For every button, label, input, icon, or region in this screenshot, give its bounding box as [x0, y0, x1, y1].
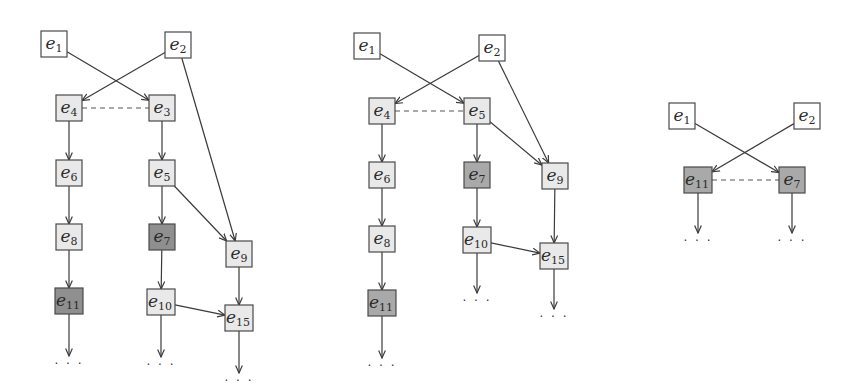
event-node-e11: e11: [368, 290, 396, 316]
event-node-e2: e2: [794, 103, 820, 129]
edge-e2-to-e9: [182, 58, 235, 241]
event-node-e4: e4: [56, 95, 82, 121]
event-node-e7: e7: [464, 162, 490, 188]
ellipsis-e11: · · ·: [683, 234, 712, 248]
event-node-e3: e3: [149, 95, 175, 121]
event-node-e2: e2: [479, 35, 505, 61]
event-graph-diagram-1: · · ·· · ·· · ·e1e2e4e3e6e5e8e7e9e11e10e…: [41, 31, 254, 388]
event-node-e4: e4: [369, 98, 395, 124]
event-node-e11: e11: [684, 167, 712, 193]
event-node-e10: e10: [147, 289, 175, 315]
nodes: e1e2e11e7: [669, 103, 820, 193]
event-node-e9: e9: [226, 241, 252, 267]
event-graph-diagram-2: · · ·· · ·· · ·e1e2e4e5e6e7e9e8e10e15e11: [354, 33, 569, 373]
edge-e1-to-e5: [380, 54, 464, 104]
ellipsis-e15: · · ·: [539, 310, 568, 324]
event-node-e11: e11: [55, 288, 83, 314]
event-graph-diagram-3: · · ·· · ·e1e2e11e7: [669, 103, 820, 248]
edge-e9-to-e15: [554, 189, 555, 243]
event-node-e15: e15: [225, 305, 253, 331]
edge-e2-to-e11: [712, 124, 794, 172]
event-node-e1: e1: [354, 33, 380, 59]
edge-e2-to-e9: [498, 61, 548, 163]
ellipsis-e11: · · ·: [54, 357, 83, 371]
ellipsis-e7: · · ·: [777, 234, 806, 248]
event-node-e9: e9: [542, 163, 568, 189]
nodes: e1e2e4e5e6e7e9e8e10e15e11: [354, 33, 568, 316]
event-node-e7: e7: [149, 224, 175, 250]
ellipsis-e10: · · ·: [146, 358, 175, 372]
edge-e10-to-e15: [491, 243, 540, 253]
event-node-e5: e5: [149, 160, 175, 186]
edge-e1-to-e3: [67, 52, 149, 101]
edge-e1-to-e7: [695, 124, 779, 173]
event-node-e8: e8: [369, 226, 395, 252]
edge-e5-to-e9: [174, 186, 226, 241]
ellipsis-e15: · · ·: [224, 374, 253, 388]
event-graph-canvas: · · ·· · ·· · ·e1e2e4e3e6e5e8e7e9e11e10e…: [0, 0, 856, 392]
event-node-e1: e1: [41, 31, 67, 57]
ellipsis-e10: · · ·: [462, 294, 491, 308]
event-node-e15: e15: [540, 243, 568, 269]
ellipsis-e11: · · ·: [367, 359, 396, 373]
event-node-e1: e1: [669, 103, 695, 129]
edge-e7-to-e10: [161, 250, 162, 289]
nodes: e1e2e4e3e6e5e8e7e9e11e10e15: [41, 31, 253, 331]
event-node-e5: e5: [464, 98, 490, 124]
edge-e5-to-e9: [490, 122, 542, 165]
edge-e2-to-e4: [82, 53, 165, 101]
event-node-e6: e6: [369, 162, 395, 188]
event-node-e10: e10: [463, 227, 491, 253]
event-node-e7: e7: [779, 167, 805, 193]
edge-e2-to-e4: [395, 55, 479, 103]
event-node-e8: e8: [56, 224, 82, 250]
event-node-e6: e6: [56, 160, 82, 186]
edge-e10-to-e15: [175, 305, 225, 315]
event-node-e2: e2: [165, 32, 191, 58]
